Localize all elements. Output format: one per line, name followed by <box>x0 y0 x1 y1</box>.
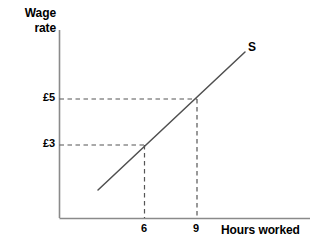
supply-curve-figure: Wagerate £5 £3 6 9 Hours worked S <box>0 0 321 246</box>
y-axis-title: Wagerate <box>8 6 56 36</box>
y-axis-title-line2: rate <box>34 21 56 35</box>
y-axis-title-line1: Wage <box>25 6 56 20</box>
y-tick-label-wage-3: £3 <box>33 138 55 150</box>
x-tick-label-hours-9: 9 <box>188 223 204 235</box>
supply-curve-line <box>98 52 245 190</box>
supply-curve-label: S <box>248 41 256 54</box>
chart-plot-area <box>0 0 321 246</box>
x-tick-label-hours-6: 6 <box>136 223 152 235</box>
x-axis-title: Hours worked <box>221 224 300 237</box>
y-tick-label-wage-5: £5 <box>33 92 55 104</box>
